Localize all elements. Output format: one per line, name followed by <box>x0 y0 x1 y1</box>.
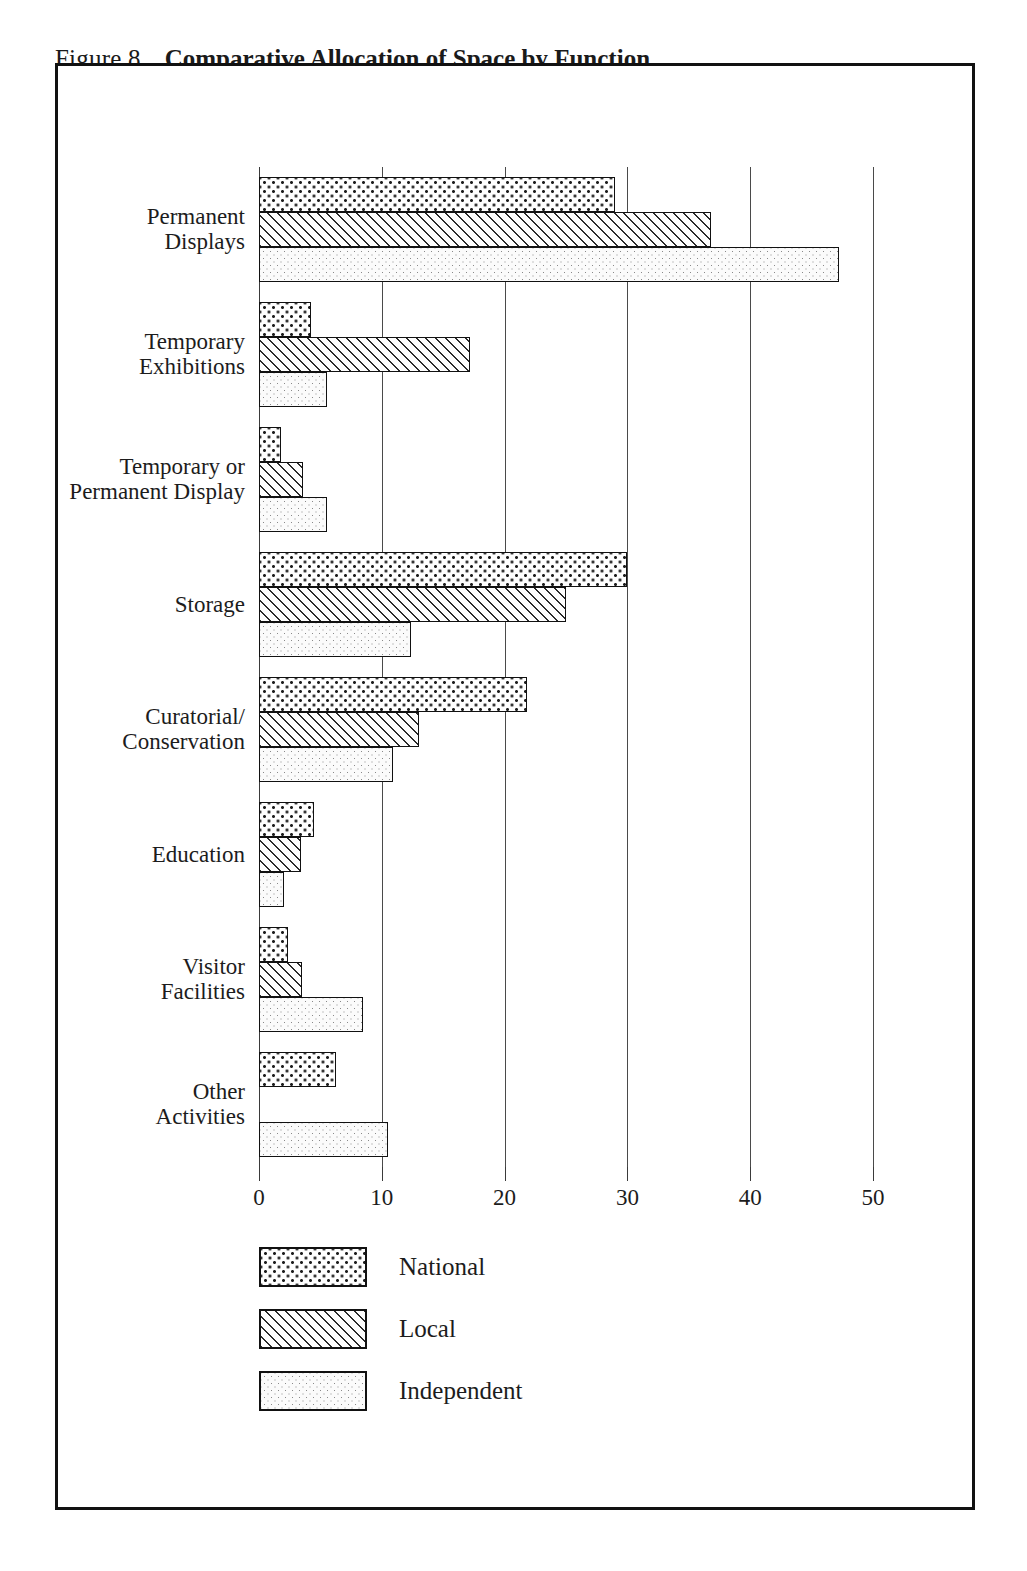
category-label: PermanentDisplays <box>147 204 259 256</box>
bar-group: Education <box>259 802 873 907</box>
bar-national <box>259 302 311 337</box>
legend-swatch-independent <box>259 1371 367 1411</box>
category-label: Curatorial/Conservation <box>122 704 259 756</box>
x-tick-label-10: 10 <box>370 1185 393 1211</box>
bar-national <box>259 677 527 712</box>
category-label: Storage <box>175 592 259 618</box>
category-label: OtherActivities <box>156 1079 259 1131</box>
bar-local <box>259 962 302 997</box>
x-tick-40 <box>750 1167 751 1181</box>
bar-independent <box>259 997 363 1032</box>
bar-national <box>259 427 281 462</box>
category-label-line: Permanent Display <box>69 480 245 506</box>
gridline-50 <box>873 167 874 1167</box>
category-label-line: Visitor <box>161 954 245 980</box>
bar-group: VisitorFacilities <box>259 927 873 1032</box>
bar-independent <box>259 1122 388 1157</box>
category-label: TemporaryExhibitions <box>139 329 259 381</box>
category-label-line: Conservation <box>122 730 245 756</box>
bar-national <box>259 552 627 587</box>
bar-group: Temporary orPermanent Display <box>259 427 873 532</box>
category-label-line: Exhibitions <box>139 355 245 381</box>
x-tick-10 <box>382 1167 383 1181</box>
category-label-line: Curatorial/ <box>122 704 245 730</box>
x-tick-label-40: 40 <box>739 1185 762 1211</box>
legend-label: National <box>399 1253 485 1281</box>
bar-local <box>259 337 470 372</box>
chart-legend: NationalLocalIndependent <box>259 1244 523 1430</box>
bar-group: PermanentDisplays <box>259 177 873 282</box>
bar-national <box>259 802 314 837</box>
category-label: Temporary orPermanent Display <box>69 454 259 506</box>
bar-group: Curatorial/Conservation <box>259 677 873 782</box>
bar-national <box>259 927 288 962</box>
x-tick-label-50: 50 <box>862 1185 885 1211</box>
bar-local <box>259 212 711 247</box>
category-label-line: Temporary or <box>69 454 245 480</box>
bar-local <box>259 712 419 747</box>
x-tick-30 <box>627 1167 628 1181</box>
bar-independent <box>259 247 839 282</box>
category-label: VisitorFacilities <box>161 954 259 1006</box>
legend-label: Independent <box>399 1377 523 1405</box>
bar-group: Storage <box>259 552 873 657</box>
legend-item: National <box>259 1244 523 1290</box>
bar-independent <box>259 497 327 532</box>
bar-group: TemporaryExhibitions <box>259 302 873 407</box>
chart-plot-area: 01020304050 PermanentDisplaysTemporaryEx… <box>259 167 873 1167</box>
legend-item: Independent <box>259 1368 523 1414</box>
x-tick-label-0: 0 <box>253 1185 265 1211</box>
bar-national <box>259 1052 336 1087</box>
category-label-line: Activities <box>156 1105 245 1131</box>
category-label-line: Displays <box>147 230 245 256</box>
category-label-line: Permanent <box>147 204 245 230</box>
x-tick-label-20: 20 <box>493 1185 516 1211</box>
bar-local <box>259 587 566 622</box>
category-label-line: Storage <box>175 592 245 618</box>
category-label-line: Education <box>152 842 245 868</box>
bar-national <box>259 177 615 212</box>
legend-label: Local <box>399 1315 456 1343</box>
category-label: Education <box>152 842 259 868</box>
bar-independent <box>259 872 284 907</box>
category-label-line: Temporary <box>139 329 245 355</box>
x-tick-20 <box>505 1167 506 1181</box>
bar-local <box>259 462 303 497</box>
bar-independent <box>259 372 327 407</box>
bar-group: OtherActivities <box>259 1052 873 1157</box>
bar-independent <box>259 747 393 782</box>
category-label-line: Facilities <box>161 980 245 1006</box>
category-label-line: Other <box>156 1079 245 1105</box>
x-tick-50 <box>873 1167 874 1181</box>
x-tick-label-30: 30 <box>616 1185 639 1211</box>
legend-swatch-national <box>259 1247 367 1287</box>
bar-local <box>259 837 301 872</box>
bar-independent <box>259 622 411 657</box>
x-tick-0 <box>259 1167 260 1181</box>
legend-swatch-local <box>259 1309 367 1349</box>
legend-item: Local <box>259 1306 523 1352</box>
